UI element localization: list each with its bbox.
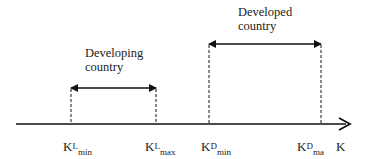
developed-country-label: Developed country	[238, 5, 292, 33]
diagram-canvas	[0, 0, 366, 159]
developed-label-line1: Developed	[238, 5, 292, 19]
k-axis-label: K	[336, 140, 345, 154]
developing-country-label: Developing country	[85, 46, 143, 74]
developing-label-line2: country	[85, 60, 143, 74]
k-developed-max-label: KDma	[297, 140, 324, 155]
k-developed-min-label: KDmin	[201, 140, 231, 155]
developing-label-line1: Developing	[85, 46, 143, 60]
developed-label-line2: country	[238, 19, 292, 33]
k-developing-max-label: KLmax	[145, 140, 175, 155]
k-developing-min-label: KLmin	[63, 140, 92, 155]
